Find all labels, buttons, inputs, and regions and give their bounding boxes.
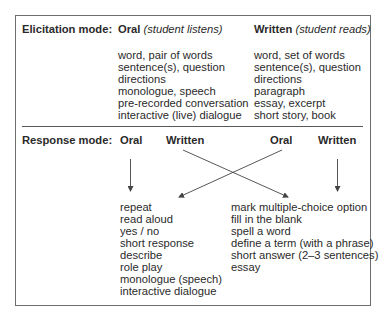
list-item: word, pair of words [118,49,249,61]
list-item: sentence(s), question [118,61,249,73]
section-divider [22,126,363,127]
elicitation-oral-title: Oral [118,23,140,35]
list-item: pre-recorded conversation [118,97,249,109]
list-item: monologue, speech [118,85,249,97]
response-right-oral-header: Oral [270,134,292,146]
list-item: repeat [120,201,222,213]
list-item: paragraph [254,85,361,97]
response-oral-list: repeat read aloud yes / no short respons… [120,201,222,297]
response-right-written-header: Written [318,134,356,146]
list-item: define a term (with a phrase) [231,237,378,249]
list-item: essay [231,261,378,273]
list-item: word, set of words [254,49,361,61]
elicitation-written-title: Written [254,23,292,35]
response-left-written-header: Written [166,134,204,146]
elicitation-written-list: word, set of words sentence(s), question… [254,49,361,121]
elicitation-oral-list: word, pair of words sentence(s), questio… [118,49,249,121]
list-item: mark multiple-choice option [231,201,378,213]
list-item: directions [254,73,361,85]
list-item: spell a word [231,225,378,237]
list-item: yes / no [120,225,222,237]
list-item: describe [120,249,222,261]
elicitation-written-header: Written (student reads) [254,23,371,35]
list-item: directions [118,73,249,85]
list-item: read aloud [120,213,222,225]
list-item: monologue (speech) [120,273,222,285]
response-mode-label: Response mode: [22,134,112,146]
elicitation-written-subtitle: (student reads) [295,23,370,35]
elicitation-oral-header: Oral (student listens) [118,23,222,35]
list-item: short response [120,237,222,249]
list-item: short answer (2–3 sentences) [231,249,378,261]
list-item: interactive (live) dialogue [118,109,249,121]
list-item: fill in the blank [231,213,378,225]
response-written-list: mark multiple-choice option fill in the … [231,201,378,273]
list-item: sentence(s), question [254,61,361,73]
elicitation-mode-label: Elicitation mode: [22,23,112,35]
list-item: interactive dialogue [120,285,222,297]
list-item: short story, book [254,109,361,121]
list-item: essay, excerpt [254,97,361,109]
list-item: role play [120,261,222,273]
response-left-oral-header: Oral [120,134,142,146]
elicitation-oral-subtitle: (student listens) [144,23,223,35]
